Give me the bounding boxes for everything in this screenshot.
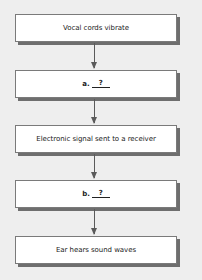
step-electronic-signal: Electronic signal sent to a receiver [15, 125, 177, 153]
blank-answer-b: ? [92, 190, 110, 198]
step-vocal-cords-vibrate: Vocal cords vibrate [15, 14, 177, 42]
blank-label-a: a. [82, 80, 89, 88]
step-text: Ear hears sound waves [56, 246, 136, 254]
arrow-down-icon [94, 209, 95, 234]
step-blank-a: a. ? [15, 70, 177, 98]
step-blank-b: b. ? [15, 180, 177, 208]
step-text: Vocal cords vibrate [63, 24, 129, 32]
blank-label-b: b. [82, 190, 90, 198]
blank-answer-a: ? [92, 80, 110, 88]
step-ear-hears-sound: Ear hears sound waves [15, 236, 177, 264]
arrow-down-icon [94, 154, 95, 178]
arrow-down-icon [94, 43, 95, 68]
step-text: Electronic signal sent to a receiver [36, 135, 155, 143]
arrow-down-icon [94, 99, 95, 123]
